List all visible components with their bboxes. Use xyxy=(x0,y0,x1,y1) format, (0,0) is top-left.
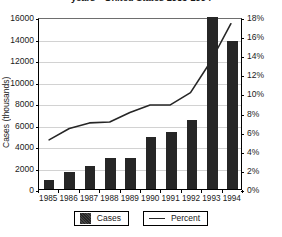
x-tickmark xyxy=(99,190,100,193)
y-tick-label-left: 16000 xyxy=(2,14,34,23)
y-tickmark-right xyxy=(241,57,244,58)
y-tickmark-left xyxy=(36,148,39,149)
x-tickmark xyxy=(242,190,243,193)
legend-item-percent: Percent xyxy=(143,211,208,226)
y-tick-label-left: 6000 xyxy=(2,121,34,130)
y-tick-label-right: 6% xyxy=(247,128,281,137)
x-tickmark xyxy=(160,190,161,193)
x-axis: 1985198619871988198919901991199219931994 xyxy=(38,190,242,210)
x-tickmark xyxy=(201,190,202,193)
y-tickmark-left xyxy=(36,170,39,171)
y-tick-label-right: 0% xyxy=(247,186,281,195)
chart-title: years—United States 1985-1994 xyxy=(0,0,282,3)
y-tick-label-right: 18% xyxy=(247,14,281,23)
y-tickmark-right xyxy=(241,172,244,173)
y-tick-label-left: 14000 xyxy=(2,35,34,44)
y-tickmark-left xyxy=(36,41,39,42)
x-tickmark xyxy=(38,190,39,193)
y-tickmark-right xyxy=(241,115,244,116)
y-tick-label-left: 8000 xyxy=(2,100,34,109)
y-tick-label-left: 10000 xyxy=(2,78,34,87)
plot-area xyxy=(38,18,242,190)
y-tick-label-left: 4000 xyxy=(2,143,34,152)
chart-legend: Cases Percent xyxy=(0,211,282,226)
y-tickmark-right xyxy=(241,95,244,96)
y-tick-label-right: 12% xyxy=(247,71,281,80)
x-tickmark xyxy=(222,190,223,193)
measles-cases-chart: years—United States 1985-1994 Cases (tho… xyxy=(0,0,282,237)
y-tickmark-left xyxy=(36,62,39,63)
x-tickmark xyxy=(120,190,121,193)
y-tickmark-right xyxy=(241,38,244,39)
y-tickmark-right xyxy=(241,76,244,77)
x-tickmark xyxy=(140,190,141,193)
y-tick-label-right: 8% xyxy=(247,109,281,118)
y-tick-label-right: 10% xyxy=(247,90,281,99)
y-tick-label-left: 12000 xyxy=(2,57,34,66)
y-tick-label-right: 16% xyxy=(247,33,281,42)
y-tickmark-right xyxy=(241,134,244,135)
y-tick-label-right: 14% xyxy=(247,52,281,61)
legend-item-cases: Cases xyxy=(74,211,129,226)
y-axis-title-left: Cases (thousands) xyxy=(1,52,15,172)
x-tickmark xyxy=(181,190,182,193)
chart-title-line-2: years—United States 1985-1994 xyxy=(0,0,282,3)
y-tickmark-right xyxy=(241,153,244,154)
x-tickmark xyxy=(79,190,80,193)
y-tickmark-left xyxy=(36,19,39,20)
y-tick-label-left: 2000 xyxy=(2,164,34,173)
x-tickmark xyxy=(58,190,59,193)
y-tickmark-left xyxy=(36,105,39,106)
cases-swatch-icon xyxy=(80,213,91,224)
y-tick-label-right: 4% xyxy=(247,148,281,157)
y-tick-label-left: 0 xyxy=(2,186,34,195)
y-tick-label-right: 2% xyxy=(247,167,281,176)
y-tickmark-left xyxy=(36,127,39,128)
x-tick-label-1994: 1994 xyxy=(219,194,245,203)
y-tickmark-right xyxy=(241,19,244,20)
y-tickmark-left xyxy=(36,84,39,85)
line-series-percent xyxy=(39,19,241,189)
legend-label-cases: Cases xyxy=(97,214,121,223)
percent-swatch-icon xyxy=(149,218,165,219)
legend-label-percent: Percent xyxy=(171,214,200,223)
